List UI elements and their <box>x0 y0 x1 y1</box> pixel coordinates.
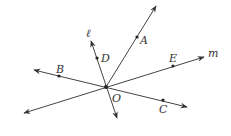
ray-oa <box>106 6 156 87</box>
label-o: O <box>112 92 121 105</box>
label-a: A <box>139 34 148 47</box>
label-b: B <box>55 63 64 76</box>
label-line-m: m <box>208 47 218 60</box>
label-e: E <box>168 52 177 65</box>
label-c: C <box>159 103 168 116</box>
point-c <box>161 98 164 101</box>
point-a <box>135 35 138 38</box>
geometry-diagram: A D E B C O ℓ m <box>0 0 231 136</box>
point-o <box>104 85 108 89</box>
diagram-svg: A D E B C O ℓ m <box>0 0 231 136</box>
label-line-l: ℓ <box>86 27 91 40</box>
point-d <box>95 56 98 59</box>
label-d: D <box>100 52 110 65</box>
